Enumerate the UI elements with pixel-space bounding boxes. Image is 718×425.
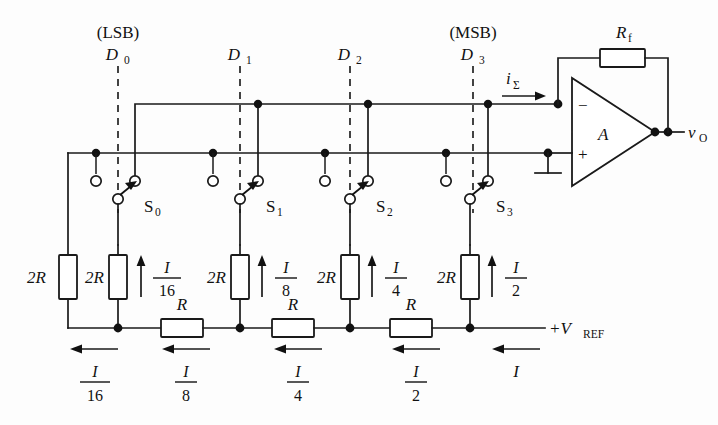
summing-bus — [135, 100, 558, 181]
switch-sub-s2: 2 — [387, 206, 393, 218]
shunt-resistor-label-d3: 2R — [437, 268, 457, 287]
reference-label: +V — [549, 319, 573, 338]
s1-pole[interactable] — [235, 194, 245, 204]
series-resistor-label-3: R — [405, 295, 417, 314]
ladder-node-d1 — [236, 324, 245, 333]
bit-sub-d2: 2 — [356, 54, 362, 66]
branch-current-arrow-head-d1 — [258, 255, 267, 266]
switch-sub-s0: 0 — [155, 206, 161, 218]
ground-rail — [68, 149, 548, 328]
shunt-resistor-d0 — [109, 255, 127, 299]
series-resistor-2 — [272, 319, 314, 337]
noninverting-input-sign: + — [578, 145, 588, 164]
shunt-resistor-label-d1: 2R — [207, 268, 227, 287]
terminating-resistor-group: 2R — [27, 255, 77, 299]
bit-label-d0: D — [105, 45, 119, 64]
bus-node-s2 — [364, 100, 372, 108]
msb-annotation: (MSB) — [449, 23, 496, 42]
rail-current-arrow-head-3 — [392, 344, 404, 353]
bit-control-lines — [118, 66, 473, 213]
branch-current-den-d3: 2 — [512, 282, 520, 299]
s2-pole[interactable] — [345, 194, 355, 204]
feedback-resistor — [600, 49, 645, 67]
branch-current-num-d0: I — [163, 259, 170, 276]
ladder-node-d2 — [346, 324, 355, 333]
rail-current-num-2: I — [294, 363, 301, 380]
source-current-label: I — [512, 362, 520, 381]
r2r-dac-schematic: (LSB) D 0 D 1 D 2 (MSB) D 3 i Σ — [0, 0, 718, 425]
bit-label-d2: D — [337, 45, 351, 64]
summing-current-arrow-head — [535, 92, 546, 101]
output-label: v — [688, 123, 696, 142]
branch-current-den-d0: 16 — [159, 282, 175, 299]
branch-current-arrow-head-d2 — [368, 255, 377, 266]
inverting-input-sign: − — [578, 96, 588, 115]
shunt-branch-d3: 2R I 2 — [437, 245, 527, 328]
opamp-triangle — [572, 78, 655, 186]
shunt-branch-d2: 2R I 4 — [317, 245, 407, 328]
branch-current-den-d2: 4 — [392, 282, 400, 299]
shunt-resistor-d2 — [341, 255, 359, 299]
switch-label-s3: S — [496, 197, 505, 216]
shunt-branch-d1: 2R I 8 — [207, 245, 297, 328]
ladder-node-d0 — [114, 324, 123, 333]
rail-current-num-3: I — [412, 363, 419, 380]
summing-bus-wire — [135, 104, 558, 181]
switch-s0[interactable]: S 0 — [91, 153, 161, 245]
bit-labels: (LSB) D 0 D 1 D 2 (MSB) D 3 — [97, 23, 497, 66]
opamp-designator: A — [597, 125, 609, 144]
switch-s1[interactable]: S 1 — [208, 153, 283, 245]
output-sub: O — [699, 132, 707, 144]
terminating-resistor-2r — [59, 255, 77, 299]
series-resistor-1 — [161, 319, 203, 337]
reference-sub: REF — [583, 328, 604, 340]
feedback-wire-right — [645, 58, 668, 132]
series-resistor-3 — [390, 319, 432, 337]
bus-node-s3 — [484, 100, 492, 108]
branch-current-arrow-head-d0 — [137, 255, 146, 266]
branch-current-num-d3: I — [512, 259, 519, 276]
s1-left-contact[interactable] — [208, 176, 218, 186]
bit-label-d3: D — [460, 45, 474, 64]
shunt-resistor-label-d2: 2R — [317, 268, 337, 287]
feedback-resistor-label: R — [615, 23, 627, 42]
opamp-output-node — [651, 128, 660, 137]
s3-left-contact[interactable] — [441, 176, 451, 186]
switch-label-s2: S — [376, 197, 385, 216]
switch-sub-s1: 1 — [277, 206, 283, 218]
switch-sub-s3: 3 — [507, 206, 513, 218]
source-current-arrow-head — [492, 344, 504, 353]
series-resistor-label-2: R — [287, 295, 299, 314]
branch-current-num-d2: I — [392, 259, 399, 276]
bit-sub-d3: 3 — [479, 54, 485, 66]
bit-sub-d0: 0 — [124, 54, 130, 66]
switch-s2[interactable]: S 2 — [320, 153, 393, 245]
rail-current-num-0: I — [91, 363, 98, 380]
summing-current-sub: Σ — [513, 79, 520, 91]
rail-current-annotations: I 16 I 8 I 4 I 2 I — [70, 344, 540, 404]
rail-current-den-3: 2 — [412, 387, 420, 404]
lsb-annotation: (LSB) — [97, 23, 140, 42]
s0-left-contact[interactable] — [91, 176, 101, 186]
bit-sub-d1: 1 — [246, 54, 252, 66]
operational-amplifier: A − + v O — [535, 78, 707, 186]
s2-left-contact[interactable] — [320, 176, 330, 186]
terminating-resistor-label: 2R — [27, 268, 47, 287]
rail-current-den-1: 8 — [182, 387, 190, 404]
bit-label-d1: D — [227, 45, 241, 64]
shunt-resistor-label-d0: 2R — [85, 268, 105, 287]
summing-current-label: i — [506, 69, 511, 88]
summing-current-annotation: i Σ — [502, 69, 546, 101]
bus-node-s1 — [254, 100, 262, 108]
rail-current-arrow-head-2 — [274, 344, 286, 353]
ladder-node-d3 — [466, 324, 475, 333]
s0-pole[interactable] — [113, 194, 123, 204]
rail-current-arrow-head-1 — [162, 344, 174, 353]
shunt-resistor-d1 — [231, 255, 249, 299]
switch-s3[interactable]: S 3 — [441, 153, 513, 245]
branch-current-num-d1: I — [282, 259, 289, 276]
shunt-branch-d0: 2R I 16 — [85, 245, 181, 328]
s3-pole[interactable] — [465, 194, 475, 204]
feedback-resistor-sub: f — [628, 32, 632, 44]
switch-label-s1: S — [266, 197, 275, 216]
